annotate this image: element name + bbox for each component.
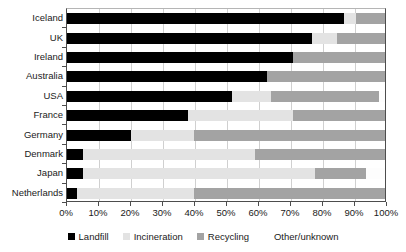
x-tick (162, 202, 163, 206)
x-tick (322, 202, 323, 206)
category-label-ireland: Ireland (0, 51, 63, 62)
bar-segment-recycling (255, 149, 385, 160)
bar-segment-incineration (131, 130, 195, 141)
bar-row (67, 13, 385, 24)
bar-segment-landfill (67, 13, 344, 24)
bar-row (67, 149, 385, 160)
bars-layer (67, 9, 385, 201)
bar-segment-incineration (77, 188, 195, 199)
category-label-denmark: Denmark (0, 148, 63, 159)
x-tick (226, 202, 227, 206)
bar-segment-landfill (67, 188, 77, 199)
bar-segment-other-unknown (379, 91, 385, 102)
legend-item-landfill: Landfill (68, 231, 109, 242)
x-tick-label: 20% (120, 207, 139, 219)
category-label-australia: Australia (0, 70, 63, 81)
x-tick (290, 202, 291, 206)
stacked-bar-chart: IcelandUKIrelandAustraliaUSAFranceGerman… (0, 0, 406, 252)
legend-label: Incineration (134, 231, 183, 242)
bar-segment-recycling (356, 13, 385, 24)
bar-row (67, 110, 385, 121)
bar-segment-recycling (293, 52, 385, 63)
legend-item-other-unknown: Other/unknown (263, 231, 338, 242)
category-label-netherlands: Netherlands (0, 187, 63, 198)
x-tick-label: 100% (374, 207, 398, 219)
y-axis-category-labels: IcelandUKIrelandAustraliaUSAFranceGerman… (0, 8, 63, 202)
bar-segment-landfill (67, 168, 83, 179)
bar-segment-landfill (67, 91, 232, 102)
bar-segment-landfill (67, 71, 267, 82)
x-tick-label: 60% (248, 207, 267, 219)
x-tick-label: 70% (280, 207, 299, 219)
legend-swatch-icon (197, 233, 204, 240)
bar-segment-recycling (194, 130, 385, 141)
x-tick-label: 50% (216, 207, 235, 219)
category-label-uk: UK (0, 32, 63, 43)
x-tick (354, 202, 355, 206)
x-tick (98, 202, 99, 206)
bar-segment-other-unknown (366, 168, 385, 179)
bar-segment-recycling (194, 188, 385, 199)
x-tick-label: 0% (59, 207, 73, 219)
bar-segment-landfill (67, 130, 131, 141)
bar-row (67, 71, 385, 82)
category-label-usa: USA (0, 90, 63, 101)
x-tick (130, 202, 131, 206)
x-tick-label: 30% (152, 207, 171, 219)
bar-segment-incineration (188, 110, 293, 121)
legend-label: Recycling (208, 231, 249, 242)
bar-segment-landfill (67, 33, 312, 44)
bar-segment-recycling (271, 91, 379, 102)
bar-segment-landfill (67, 110, 188, 121)
bar-segment-incineration (232, 91, 270, 102)
category-label-iceland: Iceland (0, 12, 63, 23)
legend-swatch-icon (123, 233, 130, 240)
legend-swatch-icon (68, 233, 75, 240)
x-tick (386, 202, 387, 206)
bar-segment-incineration (344, 13, 357, 24)
bar-row (67, 130, 385, 141)
bar-row (67, 188, 385, 199)
plot-area (66, 8, 386, 202)
x-tick (194, 202, 195, 206)
legend-label: Other/unknown (274, 231, 338, 242)
x-tick (258, 202, 259, 206)
legend-item-recycling: Recycling (197, 231, 249, 242)
x-tick-label: 80% (312, 207, 331, 219)
x-axis-tick-labels: 0%10%20%30%40%50%60%70%80%90%100% (66, 207, 386, 221)
bar-segment-recycling (315, 168, 366, 179)
bar-row (67, 91, 385, 102)
x-tick-label: 10% (88, 207, 107, 219)
bar-segment-recycling (267, 71, 385, 82)
x-tick-label: 90% (344, 207, 363, 219)
legend-label: Landfill (79, 231, 109, 242)
bar-row (67, 33, 385, 44)
legend-item-incineration: Incineration (123, 231, 183, 242)
x-tick (66, 202, 67, 206)
legend-swatch-icon (263, 233, 270, 240)
bar-segment-incineration (83, 149, 255, 160)
category-label-germany: Germany (0, 129, 63, 140)
bar-segment-landfill (67, 149, 83, 160)
x-tick-label: 40% (184, 207, 203, 219)
category-label-france: France (0, 109, 63, 120)
bar-row (67, 52, 385, 63)
chart-legend: LandfillIncinerationRecyclingOther/unkno… (0, 231, 406, 242)
category-label-japan: Japan (0, 167, 63, 178)
bar-segment-incineration (312, 33, 337, 44)
bar-segment-incineration (83, 168, 315, 179)
bar-segment-recycling (337, 33, 385, 44)
bar-row (67, 168, 385, 179)
bar-segment-recycling (293, 110, 385, 121)
bar-segment-landfill (67, 52, 293, 63)
